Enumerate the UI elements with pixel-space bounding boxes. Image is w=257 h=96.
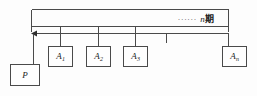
period-unit: 期 (205, 14, 214, 24)
period-annotation: ...... n期 (178, 12, 214, 25)
payment-node-a1-label: A1 (56, 52, 65, 61)
a2-subscript: 2 (100, 56, 103, 62)
a1-base: A (56, 51, 62, 61)
payment-connectors (61, 27, 229, 47)
payment-node-an-label: An (230, 52, 239, 61)
present-value-label: P (22, 71, 28, 80)
a3-base: A (131, 51, 137, 61)
a2-base: A (94, 51, 100, 61)
payment-node-a3: A3 (123, 46, 148, 67)
a3-subscript: 3 (137, 56, 140, 62)
payment-node-a3-label: A3 (131, 52, 140, 61)
an-base: A (230, 51, 236, 61)
payment-node-an: An (222, 46, 247, 67)
cash-flow-diagram-canvas: ...... n期 A1 A2 A3 An P (0, 0, 257, 96)
a1-subscript: 1 (62, 56, 65, 62)
period-label: n期 (200, 12, 214, 25)
payment-node-a2: A2 (86, 46, 111, 67)
payment-node-a2-label: A2 (94, 52, 103, 61)
present-value-node: P (10, 64, 40, 86)
dots-leader-icon: ...... (178, 13, 197, 22)
payment-node-a1: A1 (48, 46, 73, 67)
an-subscript: n (236, 56, 239, 62)
